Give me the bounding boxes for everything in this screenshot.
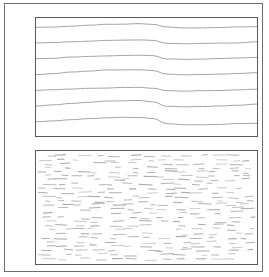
dash-mark: [122, 204, 134, 205]
dash-mark: [155, 177, 164, 178]
grain-line: [36, 24, 257, 28]
dash-mark: [92, 203, 105, 204]
dash-mark: [226, 155, 239, 156]
dash-mark: [241, 208, 255, 209]
dash-mark: [166, 193, 177, 194]
dash-mark: [54, 155, 66, 156]
grain-line: [36, 87, 257, 91]
dash-mark: [184, 242, 192, 243]
dash-mark: [202, 255, 208, 256]
dash-mark: [147, 167, 158, 168]
dash-mark: [60, 163, 70, 164]
dash-mark: [104, 197, 113, 198]
dash-mark: [106, 185, 112, 186]
dash-mark: [113, 221, 124, 222]
dash-mark: [211, 180, 219, 181]
dash-mark: [55, 224, 67, 225]
dash-mark: [121, 179, 129, 180]
dash-mark: [209, 234, 217, 235]
short-dash-plot: [36, 151, 257, 264]
dash-mark: [131, 159, 142, 160]
dash-mark: [47, 179, 56, 180]
dash-mark: [173, 184, 180, 185]
dash-mark: [131, 155, 141, 156]
dash-mark: [213, 155, 226, 156]
dash-mark: [178, 179, 190, 180]
dash-mark: [198, 204, 211, 205]
dash-mark: [178, 172, 185, 173]
dash-mark: [161, 183, 174, 184]
dash-mark: [233, 161, 240, 162]
dash-mark: [155, 251, 163, 252]
dash-mark: [140, 218, 150, 219]
dash-mark: [192, 228, 203, 229]
dash-mark: [202, 154, 208, 155]
dash-mark: [48, 156, 56, 157]
dash-mark: [243, 175, 251, 176]
dash-mark: [162, 164, 173, 165]
dash-mark: [108, 250, 115, 251]
outer-frame: [4, 3, 263, 272]
dash-mark: [133, 172, 138, 173]
dash-mark: [56, 198, 62, 199]
dash-mark: [43, 212, 53, 213]
dash-mark: [209, 237, 215, 238]
dash-mark: [128, 210, 134, 211]
dash-mark: [231, 211, 244, 212]
dash-mark: [71, 201, 81, 202]
dash-mark: [243, 173, 249, 174]
dash-mark: [98, 253, 107, 254]
dash-mark: [181, 249, 192, 250]
figure-root: [0, 0, 269, 277]
dash-mark: [59, 184, 65, 185]
dash-mark: [88, 228, 94, 229]
grain-line: [36, 117, 257, 125]
dash-mark: [232, 207, 244, 208]
dash-mark: [165, 171, 178, 172]
dash-mark: [99, 185, 106, 186]
dash-mark: [124, 228, 133, 229]
dash-mark: [181, 192, 190, 193]
dash-mark: [142, 233, 153, 234]
dash-mark: [236, 202, 244, 203]
dash-mark: [38, 192, 48, 193]
dash-mark: [228, 198, 239, 199]
continuous-grain-plot: [36, 18, 257, 136]
dash-mark: [122, 183, 132, 184]
dash-mark: [230, 168, 239, 169]
dash-mark: [93, 250, 105, 251]
dash-mark: [148, 193, 159, 194]
dash-mark: [64, 249, 73, 250]
dash-mark: [109, 172, 119, 173]
dash-mark: [240, 203, 248, 204]
dash-mark: [240, 238, 246, 239]
dash-mark: [172, 254, 185, 255]
dash-mark: [139, 184, 153, 185]
dash-mark: [242, 161, 249, 162]
dash-mark: [225, 259, 234, 260]
dash-mark: [126, 258, 137, 259]
grain-line: [36, 40, 257, 44]
dash-mark: [56, 246, 67, 247]
dash-mark: [95, 179, 100, 180]
grain-line: [36, 55, 257, 59]
dash-mark: [249, 228, 255, 229]
dash-mark: [179, 212, 187, 213]
grain-line: [36, 70, 257, 75]
short-dash-panel: [35, 150, 258, 265]
dash-mark: [108, 177, 120, 178]
dash-mark: [196, 177, 208, 178]
dash-mark: [190, 243, 199, 244]
dash-mark: [79, 192, 92, 193]
grain-line: [36, 100, 257, 106]
dash-mark: [45, 201, 50, 202]
dash-mark: [144, 208, 153, 209]
dash-mark: [91, 237, 98, 238]
dash-mark: [179, 226, 186, 227]
dash-mark: [193, 234, 203, 235]
dash-mark: [89, 244, 96, 245]
dash-mark: [73, 160, 79, 161]
continuous-grain-panel: [35, 17, 258, 137]
dash-mark: [232, 247, 242, 248]
dash-mark: [74, 221, 87, 222]
